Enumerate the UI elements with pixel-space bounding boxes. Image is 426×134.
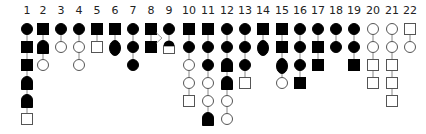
filled-circle-symbol (203, 42, 214, 53)
filled-square-symbol (146, 42, 157, 53)
filled-square-symbol (313, 42, 324, 53)
filled-circle-symbol (295, 42, 306, 53)
filled-circle-symbol (56, 24, 67, 35)
filled-circle-symbol (128, 42, 139, 53)
column-22: 22 (403, 4, 417, 53)
column-label: 7 (130, 4, 137, 17)
column-label: 4 (76, 4, 83, 17)
open-circle-symbol (222, 114, 233, 125)
column-9: 9 (164, 4, 175, 54)
column-17: 17 (311, 4, 325, 71)
filled-circle-symbol (349, 24, 360, 35)
open-square-symbol (387, 78, 398, 89)
open-circle-symbol (184, 78, 195, 89)
filled-bullet-symbol (22, 77, 33, 90)
filled-circle-symbol (164, 24, 175, 35)
column-12: 12 (220, 4, 234, 125)
column-label: 9 (166, 4, 173, 17)
column-19: 19 (347, 4, 361, 71)
column-label: 1 (24, 4, 31, 17)
column-11: 11 (201, 4, 215, 126)
filled-square-symbol (38, 24, 49, 35)
column-10: 10 (182, 4, 196, 107)
open-square-symbol (368, 78, 379, 89)
column-21: 21 (385, 4, 399, 107)
filled-circle-symbol (184, 42, 195, 53)
filled-circle-symbol (222, 24, 233, 35)
open-square-symbol (405, 24, 416, 35)
open-circle-symbol (203, 96, 214, 107)
filled-circle-symbol (240, 42, 251, 53)
filled-circle-symbol (128, 60, 139, 71)
open-square-symbol (368, 60, 379, 71)
column-label: 20 (366, 4, 380, 17)
filled-square-symbol (203, 24, 214, 35)
filled-bullet-symbol (22, 95, 33, 108)
column-label: 11 (201, 4, 215, 17)
filled-square-symbol (110, 24, 121, 35)
filled-square-symbol (313, 60, 324, 71)
open-square-symbol (240, 78, 251, 89)
filled-square-symbol (349, 60, 360, 71)
open-square-symbol (387, 96, 398, 107)
column-4: 4 (74, 4, 85, 71)
column-label: 13 (238, 4, 252, 17)
open-circle-symbol (405, 42, 416, 53)
column-5: 5 (92, 4, 103, 53)
filled-circle-symbol (313, 24, 324, 35)
open-square-symbol (92, 42, 103, 53)
filled-circle-symbol (128, 24, 139, 35)
filled-square-symbol (277, 42, 288, 53)
column-label: 6 (112, 4, 119, 17)
open-circle-symbol (387, 24, 398, 35)
column-label: 21 (385, 4, 399, 17)
open-circle-symbol (74, 42, 85, 53)
open-circle-symbol (203, 78, 214, 89)
open-circle-symbol (277, 78, 288, 89)
open-circle-symbol (368, 24, 379, 35)
filled-circle-symbol (295, 60, 306, 71)
column-15: 15 (275, 4, 289, 89)
column-label: 10 (182, 4, 196, 17)
column-label: 2 (40, 4, 47, 17)
half-filled-symbol (164, 41, 175, 54)
filled-square-symbol (258, 24, 269, 35)
column-20: 20 (366, 4, 380, 89)
filled-circle-symbol (203, 60, 214, 71)
column-14: 14 (256, 4, 270, 56)
pedigree-diagram: 12345678910111213141516171819202122 (0, 0, 426, 134)
open-circle-symbol (368, 42, 379, 53)
column-label: 5 (94, 4, 101, 17)
filled-square-symbol (22, 42, 33, 53)
diagram-canvas: 12345678910111213141516171819202122 (0, 0, 426, 134)
column-13: 13 (238, 4, 252, 89)
column-label: 15 (275, 4, 289, 17)
filled-circle-symbol (222, 42, 233, 53)
filled-bullet-symbol (203, 113, 214, 126)
open-circle-symbol (222, 96, 233, 107)
column-16: 16 (293, 4, 307, 89)
filled-oval-symbol (258, 41, 269, 56)
open-circle-symbol (74, 60, 85, 71)
open-circle-symbol (387, 42, 398, 53)
chevron-connector (157, 33, 163, 43)
filled-oval-symbol (277, 59, 288, 74)
filled-circle-symbol (295, 24, 306, 35)
open-square-symbol (22, 114, 33, 125)
filled-circle-symbol (349, 42, 360, 53)
column-2: 2 (38, 4, 49, 71)
filled-square-symbol (92, 24, 103, 35)
column-6: 6 (110, 4, 121, 56)
filled-bullet-symbol (222, 77, 233, 90)
column-3: 3 (56, 4, 67, 53)
filled-oval-symbol (110, 41, 121, 56)
column-label: 14 (256, 4, 270, 17)
column-7: 7 (128, 4, 139, 71)
column-18: 18 (329, 4, 343, 53)
column-label: 18 (329, 4, 343, 17)
filled-square-symbol (295, 78, 306, 89)
column-label: 22 (403, 4, 417, 17)
column-8: 8 (146, 4, 157, 53)
column-label: 3 (58, 4, 65, 17)
column-label: 8 (148, 4, 155, 17)
